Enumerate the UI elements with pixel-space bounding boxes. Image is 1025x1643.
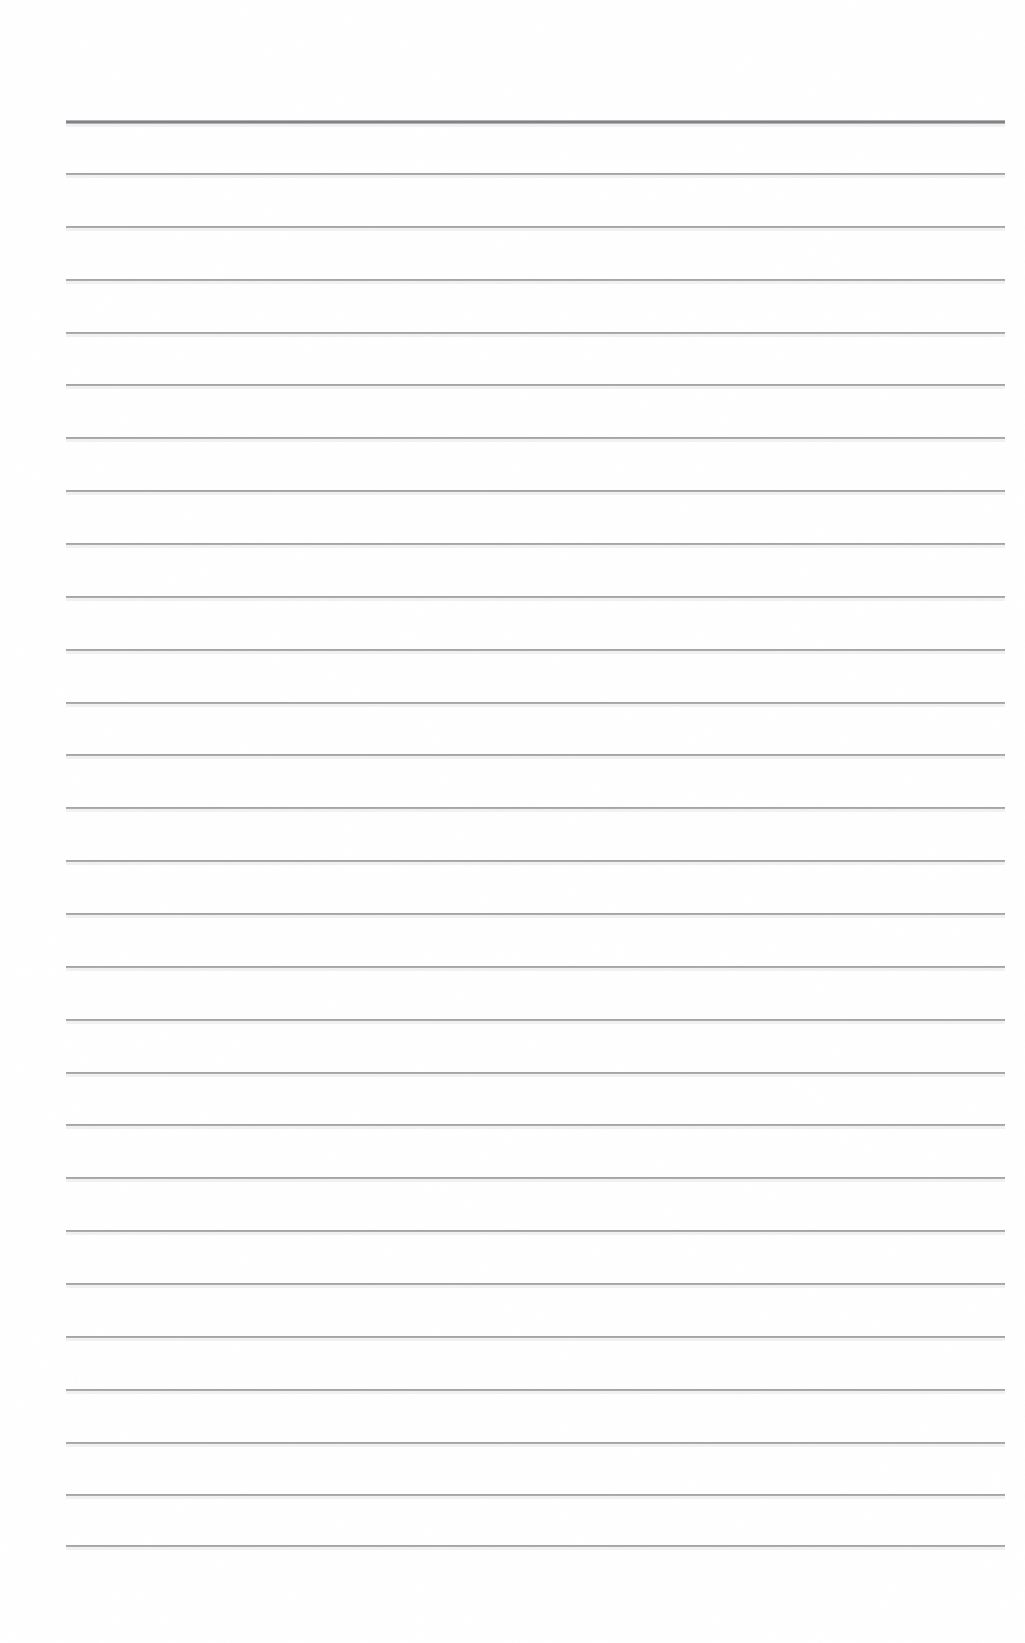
rule-line-shadow <box>66 756 1005 759</box>
rule-line <box>66 860 1005 862</box>
rule-line <box>66 1072 1005 1074</box>
rule-line <box>66 332 1005 334</box>
rule-line-shadow <box>66 1126 1005 1129</box>
rule-line <box>66 437 1005 439</box>
rule-line <box>66 913 1005 915</box>
rule-line-shadow <box>66 809 1005 812</box>
rule-line-shadow <box>66 386 1005 389</box>
rule-line-shadow <box>66 1547 1005 1550</box>
rule-line <box>66 1283 1005 1285</box>
rule-line-shadow <box>66 281 1005 284</box>
rule-line-shadow <box>66 1179 1005 1182</box>
rule-line <box>66 173 1005 175</box>
rule-line <box>66 490 1005 492</box>
rule-line-shadow <box>66 1074 1005 1077</box>
rule-line <box>66 1494 1005 1496</box>
rule-line-shadow <box>66 1338 1005 1341</box>
rule-line-shadow <box>66 598 1005 601</box>
rule-line <box>66 1389 1005 1391</box>
rule-line <box>66 1336 1005 1338</box>
rule-line-shadow <box>66 228 1005 231</box>
rule-line-shadow <box>66 334 1005 337</box>
rule-line-shadow <box>66 1285 1005 1288</box>
rule-line <box>66 754 1005 756</box>
rule-line <box>66 1545 1005 1547</box>
rule-line <box>66 1177 1005 1179</box>
rule-line <box>66 1230 1005 1232</box>
rule-line <box>66 1124 1005 1126</box>
rule-line <box>66 384 1005 386</box>
rule-line-shadow <box>66 439 1005 442</box>
rule-line <box>66 543 1005 545</box>
rule-line-shadow <box>66 1496 1005 1499</box>
rule-line-shadow <box>66 1021 1005 1024</box>
rule-line-shadow <box>66 968 1005 971</box>
rule-line <box>66 966 1005 968</box>
rule-line <box>66 279 1005 281</box>
scanned-page: Scanned blank lined notebook page <box>0 0 1025 1643</box>
rule-line-shadow <box>66 1444 1005 1447</box>
rule-line <box>66 226 1005 228</box>
rule-line-shadow <box>66 492 1005 495</box>
rule-line <box>66 1442 1005 1444</box>
rule-line <box>66 807 1005 809</box>
rule-line <box>66 702 1005 704</box>
rule-line-shadow <box>66 175 1005 178</box>
header-rule-line <box>66 120 1005 124</box>
rule-line-shadow <box>66 862 1005 865</box>
rule-line-shadow <box>66 545 1005 548</box>
rule-line-shadow <box>66 1391 1005 1394</box>
rule-line-shadow <box>66 651 1005 654</box>
rule-line-shadow <box>66 1232 1005 1235</box>
rule-line-shadow <box>66 124 1005 127</box>
ruled-lines-layer <box>0 0 1025 1643</box>
rule-line <box>66 596 1005 598</box>
rule-line-shadow <box>66 915 1005 918</box>
rule-line <box>66 649 1005 651</box>
rule-line <box>66 1019 1005 1021</box>
rule-line-shadow <box>66 704 1005 707</box>
